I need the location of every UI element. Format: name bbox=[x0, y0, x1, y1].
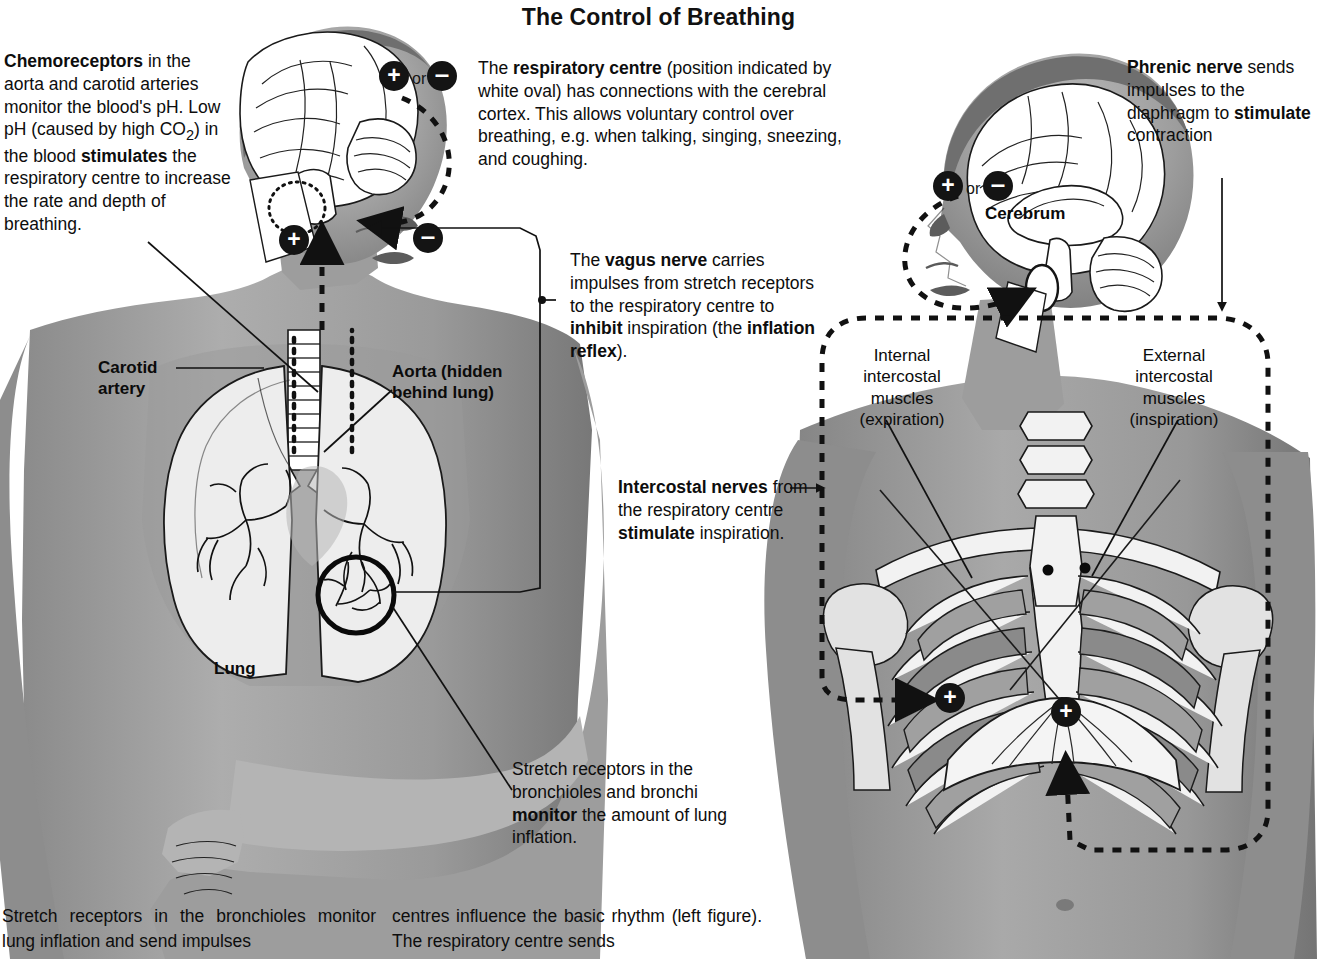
right-figure-body bbox=[764, 53, 1317, 959]
callout-stretch-receptors: Stretch receptors in the bronchioles and… bbox=[512, 758, 742, 849]
diagram-page: The Control of Breathing bbox=[0, 0, 1317, 959]
bronchial-tree-left bbox=[197, 464, 290, 600]
label-cerebrum: Cerebrum bbox=[985, 204, 1065, 225]
stretch-receptor-leader bbox=[392, 606, 512, 790]
external-intercostal-leader bbox=[1092, 420, 1178, 576]
lung-right bbox=[316, 366, 446, 682]
sign-plus-left-chemo: + bbox=[280, 226, 308, 254]
label-carotid-artery: Carotidartery bbox=[98, 358, 208, 399]
callout-respiratory-centre: The respiratory centre (position indicat… bbox=[478, 57, 860, 171]
sign-plus-diaphragm: + bbox=[1052, 698, 1080, 726]
cortex-loop-arrow bbox=[366, 98, 449, 224]
sign-plus-left-cortex: + bbox=[380, 62, 408, 90]
lung-left bbox=[164, 366, 292, 678]
callout-vagus-nerve: The vagus nerve carries impulses from st… bbox=[570, 249, 820, 363]
respiratory-centre-oval-right bbox=[1026, 265, 1058, 311]
receptor-dot bbox=[1080, 563, 1091, 574]
sign-minus-left-cortex: – bbox=[428, 62, 456, 90]
internal-intercostal-leader bbox=[886, 420, 972, 578]
ribcage-right bbox=[1066, 576, 1222, 834]
page-title: The Control of Breathing bbox=[0, 4, 1317, 31]
sign-plus-intercostal: + bbox=[936, 684, 964, 712]
ribcage-left bbox=[888, 576, 1044, 834]
callout-chemoreceptors: Chemoreceptors in the aorta and carotid … bbox=[4, 50, 232, 236]
sign-minus-right-cortex: – bbox=[984, 172, 1012, 200]
callout-phrenic-nerve: Phrenic nerve sends impulses to the diap… bbox=[1127, 56, 1317, 147]
receptor-dot bbox=[1043, 565, 1054, 576]
label-aorta: Aorta (hiddenbehind lung) bbox=[392, 362, 522, 403]
sign-plus-right-cortex: + bbox=[934, 172, 962, 200]
label-lung: Lung bbox=[214, 659, 256, 680]
caption-column-left: Stretch receptors in the bronchioles mon… bbox=[2, 904, 376, 954]
sign-or-right: or bbox=[966, 180, 980, 198]
sign-minus-left-vagus: – bbox=[414, 224, 442, 252]
vagus-nerve-path bbox=[370, 228, 540, 592]
label-external-intercostal: Externalintercostalmuscles(inspiration) bbox=[1104, 345, 1244, 430]
annotation-lines bbox=[148, 98, 1268, 850]
stretch-receptor-detail bbox=[318, 557, 394, 633]
cervical-spine bbox=[1018, 412, 1094, 508]
aorta-leader bbox=[324, 390, 392, 452]
caption-column-right: centres influence the basic rhythm (left… bbox=[392, 904, 762, 954]
bronchial-tree-right bbox=[324, 468, 413, 604]
sign-or-left: or bbox=[412, 70, 426, 88]
label-internal-intercostal: Internalintercostalmuscles(expiration) bbox=[832, 345, 972, 430]
callout-intercostal-nerves: Intercostal nerves from the respiratory … bbox=[618, 476, 818, 544]
